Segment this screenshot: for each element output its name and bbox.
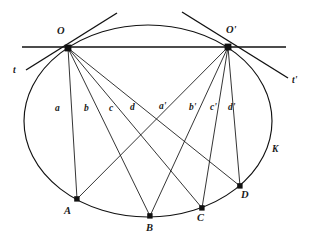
chord-a-prime-Oprime-to-A <box>77 47 228 199</box>
chord-a-O-to-A <box>68 48 77 199</box>
vertex-dot-O-prime <box>225 44 232 51</box>
point-label-O-prime: O' <box>226 25 237 36</box>
vertex-dot-C <box>199 205 204 210</box>
point-label-D: D <box>241 190 249 201</box>
tangent-line-t-prime <box>182 12 288 78</box>
vertex-dot-A <box>74 196 79 201</box>
chord-label-a: a <box>55 104 60 114</box>
chord-label-b-prime: b' <box>189 103 196 113</box>
tangent-label-t-prime: t' <box>292 76 297 86</box>
point-label-B: B <box>146 223 153 234</box>
tangent-label-t: t <box>13 66 16 76</box>
conic-label-K: K <box>272 145 278 155</box>
vertex-dot-O <box>65 45 72 52</box>
vertex-dot-B <box>147 213 152 218</box>
chord-label-d: d <box>130 103 135 113</box>
vertex-dot-D <box>237 183 242 188</box>
chord-c-O-to-C <box>68 48 202 208</box>
chord-b-prime-Oprime-to-B <box>150 47 228 216</box>
chord-label-c: c <box>109 104 113 114</box>
chord-label-d-prime: d' <box>228 103 235 113</box>
point-label-A: A <box>64 206 71 217</box>
geometry-figure: O O' A B C D a b c d a' b' c' d' t t' K <box>0 0 311 246</box>
chord-label-b: b <box>84 104 89 114</box>
tangent-line-t <box>26 13 117 70</box>
chord-d-O-to-D <box>68 48 240 186</box>
point-label-O: O <box>57 26 65 37</box>
figure-canvas <box>0 0 311 246</box>
chord-d-prime-Oprime-to-D <box>228 47 240 186</box>
chord-label-a-prime: a' <box>159 102 166 112</box>
chord-c-prime-Oprime-to-C <box>202 47 228 208</box>
chord-b-O-to-B <box>68 48 150 216</box>
point-label-C: C <box>197 213 204 224</box>
chord-label-c-prime: c' <box>210 103 217 113</box>
